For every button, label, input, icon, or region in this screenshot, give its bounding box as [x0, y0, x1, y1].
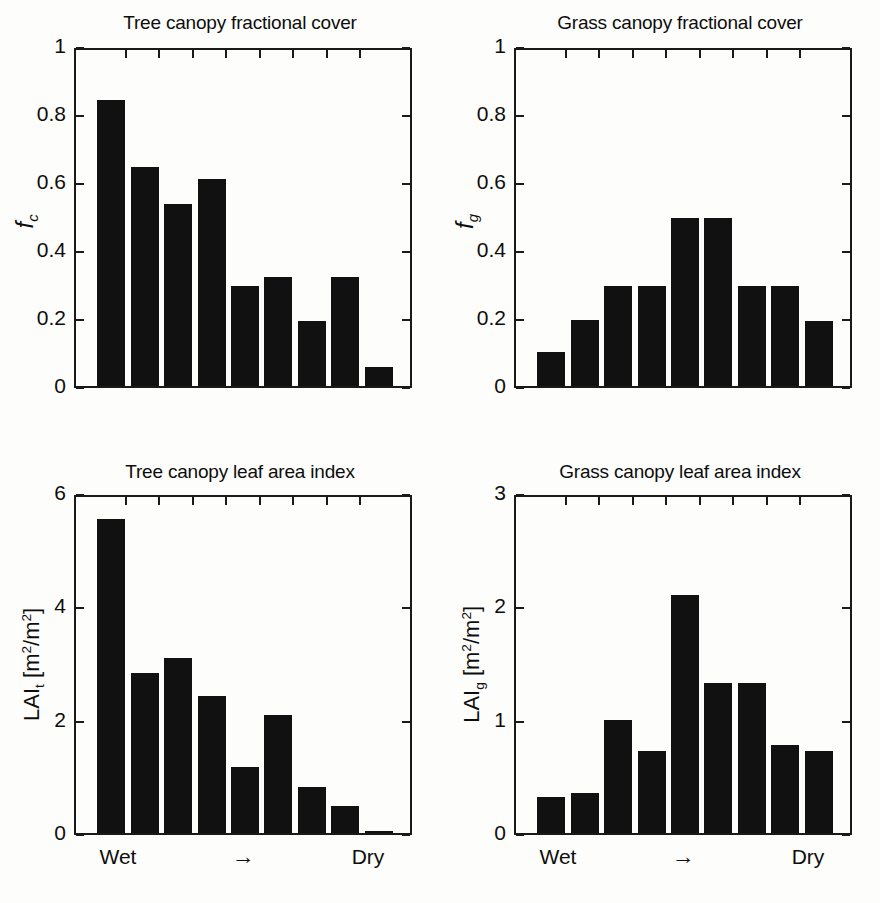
- y-axis-tick: [76, 387, 84, 389]
- bar: [198, 696, 226, 833]
- bar: [805, 321, 833, 386]
- x-axis-tick: [158, 50, 160, 58]
- y-axis-tick-label: 0: [6, 821, 66, 845]
- x-axis-tick: [565, 497, 567, 505]
- bar: [365, 831, 393, 833]
- x-axis-tick: [259, 497, 261, 505]
- bar: [231, 286, 259, 386]
- y-axis-tick: [516, 319, 524, 321]
- y-axis-tick: [516, 721, 524, 723]
- y-axis-tick-label: 0.8: [6, 102, 66, 126]
- bar-series-tree-lai: [76, 497, 410, 833]
- x-axis-tick: [326, 50, 328, 58]
- bar: [331, 806, 359, 833]
- x-axis-tick: [799, 497, 801, 505]
- y-axis-tick-label: 1: [6, 34, 66, 58]
- bar: [638, 751, 666, 833]
- panel-grass-canopy-leaf-area-index: Grass canopy leaf area index 0123 LAIg […: [440, 455, 880, 895]
- bar: [537, 797, 565, 833]
- y-axis-tick-label: 6: [6, 481, 66, 505]
- bar: [704, 683, 732, 833]
- y-axis-tick: [402, 47, 410, 49]
- bar: [571, 793, 599, 833]
- x-axis-tick: [799, 50, 801, 58]
- bar-series-tree-cover: [76, 50, 410, 386]
- y-axis-label-subscript: g: [465, 214, 481, 222]
- y-axis-tick: [516, 494, 524, 496]
- y-axis-tick: [76, 251, 84, 253]
- y-axis-tick: [516, 251, 524, 253]
- y-axis-tick: [516, 607, 524, 609]
- bar: [131, 167, 159, 386]
- bar: [571, 320, 599, 386]
- x-axis-tick: [766, 50, 768, 58]
- y-axis-tick: [516, 387, 524, 389]
- y-axis-tick: [842, 607, 850, 609]
- bar: [638, 286, 666, 386]
- y-axis-label-base: f: [451, 222, 478, 229]
- y-axis-tick: [402, 251, 410, 253]
- x-axis-label-dry: Dry: [328, 845, 408, 869]
- y-axis-tick: [76, 607, 84, 609]
- y-axis-tick-label: 3: [446, 481, 506, 505]
- x-axis-tick: [359, 50, 361, 58]
- plot-area-tree-lai: [74, 495, 412, 835]
- bar: [164, 204, 192, 386]
- bar: [298, 787, 326, 833]
- figure-canvas: Tree canopy fractional cover 00.20.40.60…: [0, 0, 880, 903]
- y-axis-tick: [516, 834, 524, 836]
- y-axis-units-prefix: [m: [19, 654, 44, 685]
- y-axis-units-sup-2: 2: [19, 614, 34, 622]
- arrow-right-icon: →: [203, 845, 283, 868]
- y-axis-units-mid: /m: [19, 622, 44, 646]
- bar: [704, 218, 732, 386]
- y-axis-tick: [842, 494, 850, 496]
- plot-area-grass-cover: [514, 48, 852, 388]
- y-axis-tick-label: 0.2: [446, 306, 506, 330]
- y-axis-tick: [76, 494, 84, 496]
- y-axis-label-base: LAI: [19, 688, 44, 721]
- y-axis-tick: [76, 721, 84, 723]
- y-axis-tick: [76, 834, 84, 836]
- bar: [771, 286, 799, 386]
- x-axis-tick: [192, 50, 194, 58]
- y-axis-tick: [842, 47, 850, 49]
- bar: [365, 367, 393, 386]
- y-axis-tick: [76, 47, 84, 49]
- x-axis-tick: [699, 497, 701, 505]
- bar: [264, 277, 292, 386]
- y-axis-tick: [402, 834, 410, 836]
- panel-title-tree-cover: Tree canopy fractional cover: [60, 12, 420, 34]
- y-axis-tick: [402, 387, 410, 389]
- y-axis-tick: [516, 183, 524, 185]
- x-axis-tick: [125, 50, 127, 58]
- panel-tree-canopy-leaf-area-index: Tree canopy leaf area index 0246 LAIt [m…: [0, 455, 430, 895]
- y-axis-tick: [842, 387, 850, 389]
- y-axis-tick-label: 0: [446, 821, 506, 845]
- x-axis-tick: [665, 50, 667, 58]
- y-axis-tick: [76, 183, 84, 185]
- x-axis-tick: [732, 50, 734, 58]
- y-axis-tick: [402, 607, 410, 609]
- y-axis-units-sup-2: 2: [459, 612, 474, 620]
- x-axis-tick: [192, 497, 194, 505]
- y-axis-label-base: f: [11, 222, 38, 229]
- y-axis-tick: [842, 251, 850, 253]
- x-axis-tick: [598, 50, 600, 58]
- plot-area-grass-lai: [514, 495, 852, 835]
- bar: [738, 286, 766, 386]
- bar: [298, 321, 326, 386]
- bar: [164, 658, 192, 833]
- y-axis-tick: [842, 319, 850, 321]
- x-axis-tick: [125, 497, 127, 505]
- bar-series-grass-lai: [516, 497, 850, 833]
- bar: [131, 673, 159, 833]
- y-axis-tick: [842, 834, 850, 836]
- bar: [537, 352, 565, 386]
- y-axis-label-tree-cover: fc: [11, 191, 42, 251]
- y-axis-tick-label: 0: [6, 374, 66, 398]
- x-axis-tick: [766, 497, 768, 505]
- bar: [198, 179, 226, 386]
- y-axis-tick: [842, 721, 850, 723]
- y-axis-label-subscript: g: [472, 682, 487, 690]
